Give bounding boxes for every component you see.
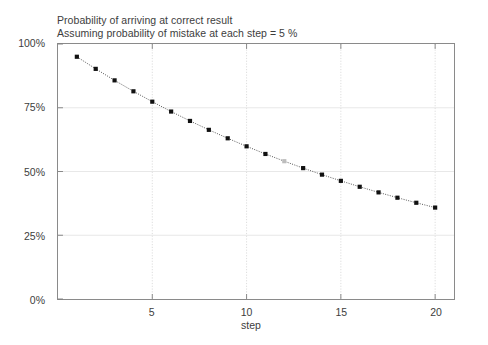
x-tick-label: 5 [149,306,155,318]
data-series [58,44,454,299]
plot-area [57,43,455,300]
data-point [433,206,437,210]
data-point [244,144,248,148]
data-point [301,166,305,170]
y-axis-labels: 0%25%50%75%100% [0,43,50,300]
data-point [282,159,286,163]
data-point [358,185,362,189]
data-point [131,89,135,93]
data-point [395,196,399,200]
data-point [207,128,211,132]
y-tick-label: 25% [24,230,45,242]
data-point [94,67,98,71]
data-point [414,201,418,205]
data-point [169,109,173,113]
data-point [376,190,380,194]
chart-container: Probability of arriving at correct resul… [0,0,488,345]
x-tick-label: 20 [430,306,442,318]
x-tick-label: 15 [335,306,347,318]
y-tick-label: 50% [24,166,45,178]
data-point [320,173,324,177]
chart-subtitle: Assuming probability of mistake at each … [57,27,297,40]
y-tick-label: 100% [18,37,45,49]
x-axis-title: step [0,319,488,331]
data-point [339,179,343,183]
chart-title-block: Probability of arriving at correct resul… [57,14,297,40]
data-point [150,100,154,104]
y-tick-label: 0% [30,294,45,306]
y-tick-label: 75% [24,101,45,113]
x-axis-labels: 5101520 [57,301,455,321]
data-point [75,55,79,59]
x-tick-label: 10 [241,306,253,318]
data-point [263,152,267,156]
series-line [77,57,435,208]
data-point [226,136,230,140]
data-point [188,119,192,123]
x-axis-title-text: step [241,319,261,331]
data-point [112,78,116,82]
chart-title: Probability of arriving at correct resul… [57,14,297,27]
